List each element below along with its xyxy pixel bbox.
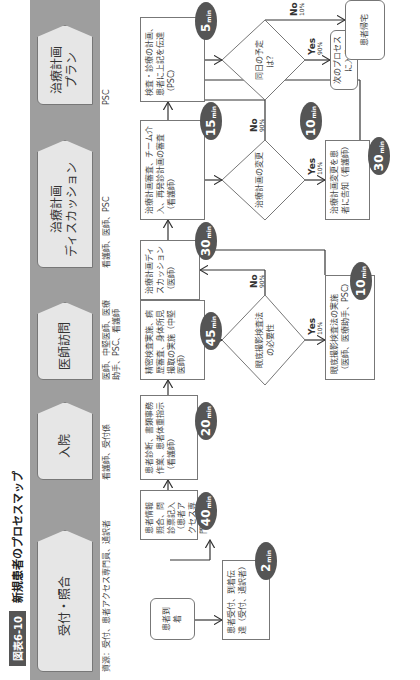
process-map-canvas: 図表6-10 新規患者のプロセスマップ 受付・照合 入院 医師訪問 治療計画 デ… (0, 0, 420, 680)
time-discussion: 30min (195, 222, 217, 260)
branch-same-day-no: No10% (290, 2, 305, 16)
time-reception: 2min (255, 542, 277, 580)
time-diag-exec: 10min (350, 262, 372, 300)
time-clean-room: 10min (300, 102, 322, 140)
time-plan-review: 15min (200, 102, 222, 140)
node-exam: 精密検査実施、病歴審査、身体所見撮取の実施（中堅医師） (140, 300, 205, 380)
decision-plan-change: 治療計画の変更 (255, 152, 266, 208)
node-patient-wait: 患者帰宅 (345, 0, 385, 60)
node-plan-change-notify: 治療計画変更を患者に告知（看護師） (325, 140, 370, 220)
branch-diag-yes: Yes10% (308, 318, 323, 335)
time-intake: 20min (195, 402, 217, 440)
branch-same-day-yes: Yes90% (308, 38, 323, 55)
time-exam: 45min (200, 312, 222, 350)
node-arrival: 患者到着 (150, 598, 195, 640)
branch-change-yes: Yes10% (308, 158, 323, 175)
time-plan-change-notify: 30min (368, 137, 390, 175)
decision-diag: 眼底撮影検査法の必要性 (255, 310, 277, 370)
node-info-check: 患者情報照合、問診票記入（患者アクセス専門員） (140, 490, 198, 540)
branch-change-no: No90% (250, 118, 265, 132)
time-info-check: 40min (195, 492, 217, 530)
node-intake: 患者診断、書類事務作業、患者体重指示（看護師） (140, 395, 198, 480)
node-discussion: 治療計画ディスカッション（医師） (140, 240, 200, 300)
time-final: 5min (195, 2, 217, 40)
branch-diag-no: No90% (250, 274, 265, 288)
node-plan-review: 治療計画審査、チーム介入、再発診計画の審査（看護師） (140, 120, 205, 220)
decision-same-day: 同日の予定は？ (255, 35, 277, 85)
